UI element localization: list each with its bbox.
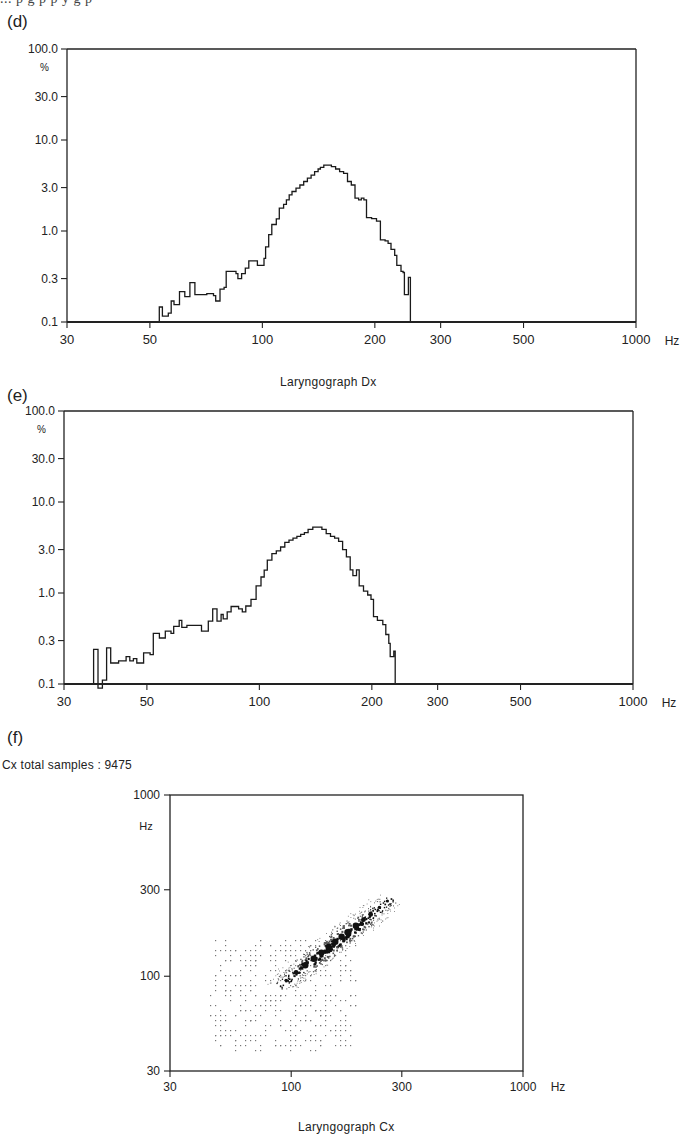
scatter-dot bbox=[314, 974, 315, 975]
scatter-dot bbox=[345, 1020, 346, 1021]
scatter-dot bbox=[335, 1030, 336, 1031]
x-tick-label: 30 bbox=[60, 332, 74, 347]
scatter-dot bbox=[289, 971, 290, 972]
scatter-dot bbox=[220, 1020, 221, 1021]
scatter-dot bbox=[364, 905, 365, 906]
scatter-dot bbox=[240, 995, 241, 996]
scatter-dot bbox=[235, 950, 236, 951]
scatter-dot bbox=[310, 1000, 311, 1001]
scatter-dot bbox=[275, 1000, 276, 1001]
y-tick-label: 1000 bbox=[133, 788, 160, 802]
scatter-dot bbox=[315, 947, 316, 948]
scatter-dot bbox=[349, 946, 350, 947]
scatter-dot bbox=[235, 985, 236, 986]
scatter-dot bbox=[285, 945, 286, 946]
x-tick-label: 100 bbox=[252, 332, 274, 347]
chart-e-caption-top: Laryngograph Dx bbox=[280, 375, 377, 389]
y-tick-label: 100 bbox=[140, 969, 160, 983]
scatter-dot bbox=[306, 952, 307, 953]
scatter-dot bbox=[240, 985, 241, 986]
scatter-dot bbox=[390, 906, 391, 907]
scatter-dot bbox=[335, 1045, 336, 1046]
scatter-dot bbox=[290, 945, 291, 946]
scatter-dot bbox=[310, 975, 311, 976]
scatter-dot bbox=[325, 1020, 326, 1021]
scatter-dot bbox=[313, 971, 314, 972]
scatter-dot bbox=[315, 1050, 316, 1051]
scatter-dot bbox=[360, 907, 361, 908]
scatter-dot bbox=[230, 995, 231, 996]
scatter-dot bbox=[315, 985, 316, 986]
scatter-dot bbox=[315, 940, 316, 941]
scatter-dot bbox=[320, 963, 322, 965]
scatter-dot bbox=[359, 911, 360, 912]
scatter-dot bbox=[325, 975, 326, 976]
scatter-dot bbox=[285, 1030, 286, 1031]
scatter-dot bbox=[377, 919, 378, 920]
scatter-dot bbox=[306, 979, 307, 980]
scatter-dot bbox=[290, 1040, 291, 1041]
scatter-dot bbox=[361, 922, 364, 925]
scatter-dot bbox=[330, 975, 331, 976]
scatter-dot bbox=[350, 1035, 351, 1036]
scatter-dot bbox=[210, 1005, 211, 1006]
scatter-dot bbox=[347, 921, 348, 922]
scatter-dot bbox=[372, 908, 373, 909]
scatter-dot bbox=[379, 926, 380, 927]
scatter-dot bbox=[375, 901, 376, 902]
scatter-dot bbox=[280, 980, 281, 981]
scatter-dot bbox=[392, 901, 393, 902]
scatter-dot bbox=[310, 1050, 311, 1051]
scatter-dot bbox=[330, 995, 331, 996]
scatter-dot bbox=[315, 1010, 316, 1011]
scatter-dot bbox=[327, 965, 328, 966]
scatter-dot bbox=[305, 1040, 306, 1041]
scatter-dot bbox=[283, 977, 284, 978]
scatter-dot bbox=[320, 1045, 321, 1046]
scatter-dot bbox=[290, 950, 291, 951]
scatter-dot bbox=[220, 965, 221, 966]
scatter-dot bbox=[355, 919, 356, 920]
scatter-dot bbox=[220, 1015, 221, 1016]
scatter-dot bbox=[260, 1050, 261, 1051]
scatter-dot bbox=[270, 955, 271, 956]
scatter-dot bbox=[318, 959, 320, 961]
scatter-dot bbox=[240, 975, 241, 976]
scatter-dot bbox=[235, 1040, 236, 1041]
scatter-dot bbox=[337, 933, 339, 935]
scatter-dot bbox=[350, 995, 351, 996]
scatter-dot bbox=[282, 988, 283, 989]
scatter-dot bbox=[337, 946, 339, 948]
scatter-dot bbox=[378, 899, 379, 900]
scatter-dot bbox=[220, 1035, 221, 1036]
scatter-density-blob bbox=[353, 923, 359, 929]
scatter-dot bbox=[346, 938, 348, 940]
chart-d: 0.10.31.03.010.030.0100.0%30501002003005… bbox=[0, 40, 697, 350]
scatter-dot bbox=[340, 925, 341, 926]
scatter-dot bbox=[374, 907, 375, 908]
scatter-dot bbox=[273, 979, 274, 980]
scatter-dot bbox=[285, 1045, 286, 1046]
scatter-dot bbox=[255, 1020, 256, 1021]
scatter-dot bbox=[302, 974, 303, 975]
scatter-dot bbox=[220, 1025, 221, 1026]
scatter-dot bbox=[298, 978, 299, 979]
scatter-dot bbox=[342, 940, 344, 942]
scatter-dot bbox=[300, 978, 301, 979]
scatter-dot bbox=[325, 1015, 326, 1016]
scatter-dot bbox=[260, 940, 261, 941]
scatter-dot bbox=[255, 1035, 256, 1036]
scatter-dot bbox=[334, 926, 335, 927]
scatter-dot bbox=[250, 1010, 251, 1011]
scatter-dot bbox=[310, 1035, 311, 1036]
scatter-dot bbox=[255, 975, 256, 976]
scatter-dot bbox=[358, 928, 360, 930]
scatter-dot bbox=[299, 972, 301, 974]
scatter-dot bbox=[290, 1025, 291, 1026]
scatter-dot bbox=[270, 1005, 271, 1006]
scatter-dot bbox=[380, 895, 381, 896]
scatter-dot bbox=[349, 921, 350, 922]
scatter-dot bbox=[342, 950, 343, 951]
scatter-dot bbox=[333, 937, 335, 939]
scatter-dot bbox=[295, 965, 296, 966]
